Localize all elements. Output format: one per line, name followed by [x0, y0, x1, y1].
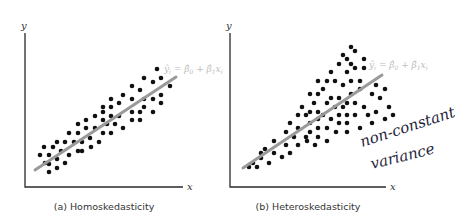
data-point — [76, 149, 81, 154]
data-point — [280, 155, 285, 160]
data-point — [121, 93, 126, 98]
data-point — [288, 121, 293, 126]
data-point — [349, 79, 354, 84]
data-point — [345, 101, 350, 106]
annotation-non-constant: non-constant — [358, 103, 459, 151]
regression-equation-b: ŷi = β̂0 + β̂1xi — [368, 60, 428, 71]
data-point — [362, 57, 367, 62]
data-point — [329, 96, 334, 101]
data-point — [353, 49, 358, 54]
data-point — [387, 105, 392, 110]
data-point — [316, 79, 321, 84]
data-point — [358, 79, 363, 84]
data-point — [159, 76, 164, 81]
data-point — [97, 140, 102, 145]
data-point — [130, 110, 135, 115]
data-point — [304, 135, 309, 140]
data-point — [337, 62, 342, 67]
data-point — [308, 92, 313, 97]
data-point — [370, 121, 375, 126]
data-point — [316, 110, 321, 115]
data-point — [329, 117, 334, 122]
data-point — [345, 130, 350, 135]
data-point — [55, 140, 60, 145]
data-point — [272, 139, 277, 144]
data-point — [138, 118, 143, 123]
regression-line-b — [243, 75, 382, 168]
data-point — [151, 97, 156, 102]
data-point — [391, 113, 396, 118]
data-point — [117, 101, 122, 106]
data-point — [349, 45, 354, 50]
data-point — [47, 170, 52, 175]
data-point — [374, 110, 379, 115]
data-point — [325, 126, 330, 131]
data-point — [353, 113, 358, 118]
data-point — [142, 105, 147, 110]
data-point — [358, 126, 363, 131]
data-point — [272, 151, 277, 156]
regression-line-a — [35, 77, 176, 170]
data-point — [383, 117, 388, 122]
data-point — [51, 145, 56, 150]
data-point — [151, 110, 156, 115]
data-point — [349, 62, 354, 67]
data-point — [313, 143, 318, 148]
figure-canvas: y x ŷi = β̂0 + β̂1xi (a) Homoskedasticit… — [0, 0, 472, 223]
data-point — [362, 66, 367, 71]
data-point — [55, 166, 60, 171]
data-point — [284, 143, 289, 148]
x-axis-label-b: x — [390, 181, 396, 192]
data-point — [296, 113, 301, 118]
y-axis-label-b: y — [225, 20, 232, 31]
data-point — [101, 105, 106, 110]
regression-equation-a: ŷi = β̂0 + β̂1xi — [163, 64, 223, 75]
data-point — [80, 149, 85, 154]
data-point — [101, 118, 106, 123]
data-point — [370, 92, 375, 97]
data-point — [366, 113, 371, 118]
data-point — [84, 126, 89, 131]
data-point — [101, 110, 106, 115]
x-axis-label-a: x — [187, 181, 193, 192]
data-point — [305, 139, 310, 144]
data-point — [109, 131, 114, 136]
data-point — [138, 110, 143, 115]
data-point — [345, 57, 350, 62]
data-point — [333, 79, 338, 84]
data-point — [67, 153, 72, 158]
data-point — [155, 67, 160, 72]
caption-a: (a) Homoskedasticity — [54, 201, 155, 212]
data-point — [341, 53, 346, 58]
data-point — [138, 88, 143, 93]
data-point — [130, 84, 135, 89]
data-point — [345, 121, 350, 126]
data-point — [337, 96, 342, 101]
panel-homoskedasticity: y x ŷi = β̂0 + β̂1xi (a) Homoskedasticit… — [20, 20, 223, 212]
data-point — [325, 79, 330, 84]
data-point — [63, 140, 68, 145]
data-point — [362, 105, 367, 110]
data-point — [159, 101, 164, 106]
data-point — [304, 113, 309, 118]
data-point — [109, 97, 114, 102]
data-point — [67, 131, 72, 136]
data-point — [47, 153, 52, 158]
data-point — [84, 118, 89, 123]
data-point — [341, 83, 346, 88]
data-point — [76, 122, 81, 127]
data-point — [63, 161, 68, 166]
data-point — [383, 87, 388, 92]
data-point — [334, 130, 339, 135]
data-point — [308, 130, 313, 135]
data-point — [151, 80, 156, 85]
data-point — [337, 121, 342, 126]
data-point — [325, 139, 330, 144]
data-point — [142, 76, 147, 81]
data-point — [76, 131, 81, 136]
panel-heteroskedasticity: y x ŷi = β̂0 + β̂1xi non-constant varian… — [225, 20, 458, 212]
data-point — [109, 105, 114, 110]
data-point — [316, 135, 321, 140]
data-point — [130, 97, 135, 102]
data-point — [316, 92, 321, 97]
